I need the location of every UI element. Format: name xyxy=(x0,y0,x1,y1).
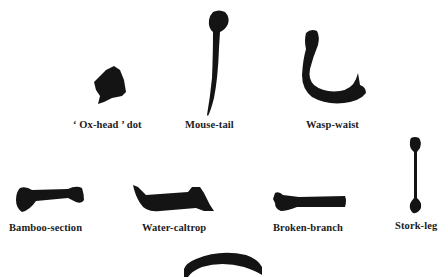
water-caltrop-stroke xyxy=(130,183,220,215)
bamboo-section-stroke xyxy=(12,184,88,214)
wasp-waist-stroke xyxy=(298,27,370,107)
ox-head-dot-stroke xyxy=(92,64,132,108)
broken-branch-label: Broken-branch xyxy=(273,222,343,233)
bamboo-section-label: Bamboo-section xyxy=(9,222,82,233)
mouse-tail-stroke xyxy=(200,8,234,118)
stork-leg-stroke xyxy=(405,136,425,216)
water-caltrop-label: Water-caltrop xyxy=(142,222,206,233)
mouse-tail-label: Mouse-tail xyxy=(185,119,234,130)
wasp-waist-label: Wasp-waist xyxy=(306,119,359,130)
ox-head-dot-label: ‘ Ox-head ’ dot xyxy=(73,119,142,130)
arc-stroke xyxy=(182,251,266,277)
broken-branch-stroke xyxy=(271,189,351,213)
stork-leg-label: Stork-leg xyxy=(395,220,437,231)
